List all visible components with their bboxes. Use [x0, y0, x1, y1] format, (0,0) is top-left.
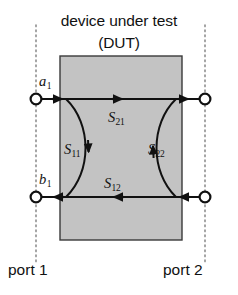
reflected-wave-symbol: b	[39, 171, 46, 187]
s22-label: S22	[148, 142, 164, 157]
s11-arrowhead	[88, 140, 89, 152]
terminal-port-1-top	[31, 94, 42, 105]
incident-wave-label: a1	[39, 74, 51, 89]
terminal-port-2-top	[200, 94, 211, 105]
diagram-canvas	[0, 0, 238, 295]
incident-wave-subscript: 1	[47, 81, 52, 91]
reflected-wave-subscript: 1	[47, 179, 52, 189]
s11-subscript: 11	[72, 149, 81, 159]
terminal-port-2-bottom	[200, 192, 211, 203]
s11-symbol: S	[64, 141, 71, 157]
port-1-caption: port 1	[8, 262, 48, 278]
s21-label: S21	[108, 110, 124, 125]
reflected-wave-label: b1	[39, 172, 51, 187]
incident-wave-symbol: a	[39, 73, 46, 89]
s21-subscript: 21	[116, 117, 125, 127]
s11-label: S11	[64, 142, 80, 157]
s22-subscript: 22	[156, 149, 165, 159]
port-2-caption: port 2	[163, 262, 203, 278]
s22-symbol: S	[148, 141, 155, 157]
s21-symbol: S	[108, 109, 115, 125]
s12-subscript: 12	[112, 183, 121, 193]
s-parameter-diagram: device under test (DUT)	[0, 0, 238, 295]
s12-symbol: S	[104, 175, 111, 191]
s12-label: S12	[104, 176, 120, 191]
terminal-port-1-bottom	[31, 192, 42, 203]
